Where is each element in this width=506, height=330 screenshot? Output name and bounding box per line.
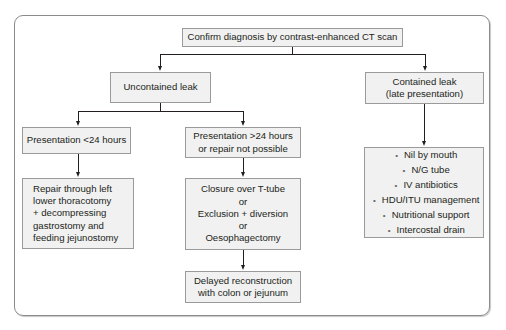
presentation-lt24-box: Presentation <24 hours: [22, 127, 131, 154]
list-item: Nil by mouth: [373, 148, 479, 163]
arrow-icon: [241, 265, 245, 270]
uncontained-leak-text: Uncontained leak: [123, 81, 197, 93]
conservative-list: Nil by mouth N/G tube IV antibiotics HDU…: [365, 148, 479, 238]
connector: [160, 54, 426, 55]
repair-line: lower thoracotomy: [33, 195, 111, 207]
closure-box: Closure over T-tube or Exclusion + diver…: [185, 178, 301, 250]
closure-line: or: [239, 220, 248, 232]
presentation-gt24-line: or repair not possible: [198, 143, 288, 155]
connector: [292, 47, 293, 54]
presentation-gt24-box: Presentation >24 hours or repair not pos…: [185, 127, 301, 158]
arrow-icon: [76, 172, 80, 177]
presentation-gt24-line: Presentation >24 hours: [193, 130, 292, 142]
arrow-icon: [422, 141, 426, 146]
repair-line: + decompressing: [33, 207, 106, 219]
delayed-line: Delayed reconstruction: [194, 275, 292, 287]
list-item: HDU/ITU management: [373, 193, 479, 208]
arrow-icon: [76, 121, 80, 126]
delayed-reconstruction-box: Delayed reconstruction with colon or jej…: [185, 271, 301, 303]
connector: [243, 158, 244, 173]
closure-line: Exclusion + diversion: [198, 208, 288, 220]
contained-leak-line: Contained leak: [392, 76, 456, 88]
connector: [424, 104, 425, 142]
repair-line: gastrostomy and: [33, 220, 104, 232]
arrow-icon: [241, 172, 245, 177]
presentation-lt24-text: Presentation <24 hours: [27, 134, 126, 146]
contained-leak-line: (late presentation): [386, 88, 463, 100]
root-box: Confirm diagnosis by contrast-enhanced C…: [182, 28, 403, 47]
repair-line: feeding jejunostomy: [33, 232, 118, 244]
connector: [243, 250, 244, 266]
list-item: Nutritional support: [373, 208, 479, 223]
closure-line: Closure over T-tube: [201, 183, 285, 195]
conservative-management-box: Nil by mouth N/G tube IV antibiotics HDU…: [364, 147, 484, 238]
delayed-line: with colon or jejunum: [198, 287, 288, 299]
closure-line: Oesophagectomy: [205, 232, 280, 244]
arrow-icon: [241, 121, 245, 126]
connector: [78, 154, 79, 173]
list-item: Intercostal drain: [373, 223, 479, 238]
root-text: Confirm diagnosis by contrast-enhanced C…: [188, 31, 398, 43]
repair-line: Repair through left: [33, 183, 112, 195]
arrow-icon: [423, 66, 427, 71]
contained-leak-box: Contained leak (late presentation): [365, 72, 484, 104]
list-item: IV antibiotics: [373, 178, 479, 193]
connector: [160, 103, 161, 111]
closure-line: or: [239, 196, 248, 208]
connector: [78, 111, 244, 112]
repair-box: Repair through left lower thoracotomy + …: [22, 178, 134, 249]
arrow-icon: [158, 66, 162, 71]
list-item: N/G tube: [373, 163, 479, 178]
uncontained-leak-box: Uncontained leak: [110, 72, 211, 103]
